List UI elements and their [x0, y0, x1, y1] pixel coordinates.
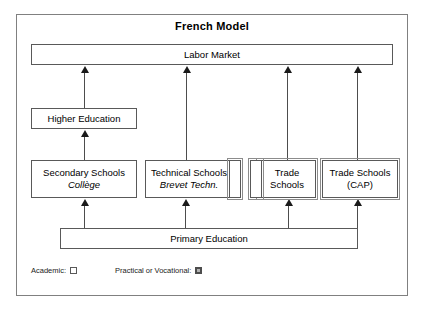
node-labor-market: Labor Market	[31, 44, 393, 65]
arrow-primary-education-to-trade-schools	[288, 205, 289, 228]
node-labor-market-label: Labor Market	[184, 49, 240, 61]
legend-entry-academic: Academic:	[31, 266, 77, 275]
node-technical-vocational-marker	[229, 160, 241, 198]
empty-square-icon	[70, 267, 77, 274]
node-trade-schools-cap-line2: (CAP)	[347, 179, 373, 191]
node-secondary-schools-label: Secondary Schools	[43, 167, 125, 179]
arrow-higher-education-to-labor-market	[84, 72, 85, 108]
node-trade-schools-line2: Schools	[270, 179, 304, 191]
node-higher-education-label: Higher Education	[48, 113, 121, 125]
arrow-trade-schools-cap-to-labor-market	[357, 72, 358, 160]
node-higher-education: Higher Education	[31, 108, 137, 129]
arrow-secondary-schools-to-higher-education	[84, 136, 85, 160]
node-primary-education: Primary Education	[60, 228, 358, 249]
node-trade-schools: Trade Schools	[258, 160, 316, 198]
node-trade-schools-line1: Trade	[275, 167, 299, 179]
node-secondary-schools-sublabel: Collège	[68, 179, 100, 191]
node-secondary-schools: Secondary Schools Collège	[31, 160, 137, 198]
node-technical-schools: Technical Schools Brevet Techn.	[145, 160, 233, 198]
legend-entry-vocational: Practical or Vocational:	[115, 266, 202, 275]
node-technical-schools-label: Technical Schools	[151, 167, 227, 179]
node-trade-schools-cap-line1: Trade Schools	[330, 167, 391, 179]
diagram-title: French Model	[16, 20, 408, 32]
arrow-trade-schools-to-labor-market	[287, 72, 288, 160]
french-model-diagram: French Model Labor Market Higher Educati…	[0, 0, 425, 312]
node-trade-schools-cap: Trade Schools (CAP)	[322, 160, 398, 198]
arrow-primary-education-to-technical-schools	[185, 205, 186, 228]
legend-academic-label: Academic:	[31, 266, 66, 275]
arrow-primary-education-to-secondary-schools	[84, 205, 85, 228]
legend: Academic: Practical or Vocational:	[31, 266, 202, 275]
node-technical-schools-sublabel: Brevet Techn.	[160, 179, 218, 191]
arrow-technical-schools-to-labor-market	[186, 72, 187, 160]
arrow-primary-education-to-trade-schools-cap	[357, 205, 358, 228]
node-trade-vocational-marker	[250, 160, 262, 198]
filled-square-icon	[195, 267, 202, 274]
legend-vocational-label: Practical or Vocational:	[115, 266, 191, 275]
node-primary-education-label: Primary Education	[170, 233, 248, 245]
